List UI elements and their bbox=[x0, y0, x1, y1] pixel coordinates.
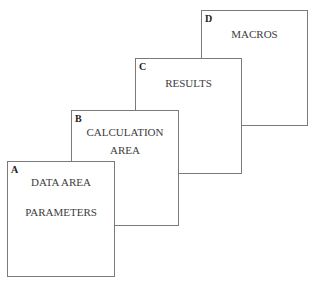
sheet-label: RESULTS bbox=[136, 75, 241, 92]
sheet-a-data-area: A DATA AREA PARAMETERS bbox=[7, 161, 115, 277]
sheet-label-line1: CALCULATION bbox=[72, 124, 178, 141]
sheet-letter: B bbox=[75, 113, 82, 124]
sheet-label-line2: AREA bbox=[72, 142, 178, 159]
sheet-label-line1: DATA AREA bbox=[8, 174, 114, 191]
sheet-letter: D bbox=[205, 13, 212, 24]
sheet-label-line2: PARAMETERS bbox=[8, 204, 114, 221]
sheet-letter: C bbox=[139, 61, 146, 72]
sheet-label: MACROS bbox=[202, 26, 307, 43]
